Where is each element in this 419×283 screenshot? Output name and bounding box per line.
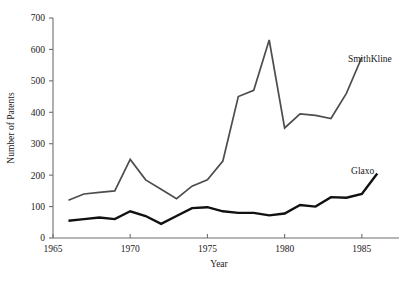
y-tick-label: 400 xyxy=(31,108,46,118)
patents-line-chart: 0100200300400500600700 19651970197519801… xyxy=(0,0,419,283)
series-line-smithkline xyxy=(68,40,361,200)
x-tick-label: 1970 xyxy=(121,244,140,254)
series-line-glaxo xyxy=(68,174,377,224)
x-tick-label: 1985 xyxy=(352,244,371,254)
y-tick-label: 100 xyxy=(31,202,46,212)
series-label-smithkline: SmithKline xyxy=(348,54,392,64)
y-axis-title: Number of Patents xyxy=(6,92,16,164)
x-axis-title: Year xyxy=(210,259,228,269)
y-tick-label: 0 xyxy=(40,233,45,243)
y-tick-label: 200 xyxy=(31,171,46,181)
y-tick-label: 500 xyxy=(31,76,46,86)
series-labels-group: SmithKlineGlaxo xyxy=(348,54,392,176)
y-tick-label: 300 xyxy=(31,139,46,149)
y-axis-ticks: 0100200300400500600700 xyxy=(31,13,53,243)
y-tick-label: 600 xyxy=(31,45,46,55)
chart-canvas: 0100200300400500600700 19651970197519801… xyxy=(0,0,419,283)
x-axis-ticks: 19651970197519801985 xyxy=(44,234,372,254)
data-series-group xyxy=(68,40,377,224)
y-tick-label: 700 xyxy=(31,13,46,23)
x-tick-label: 1980 xyxy=(275,244,294,254)
x-tick-label: 1975 xyxy=(198,244,217,254)
series-label-glaxo: Glaxo xyxy=(351,166,374,176)
x-tick-label: 1965 xyxy=(44,244,63,254)
